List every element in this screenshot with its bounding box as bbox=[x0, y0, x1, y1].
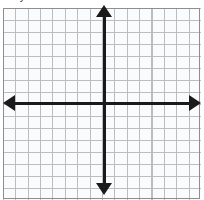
arrow-right-icon bbox=[189, 95, 201, 111]
arrow-up-icon bbox=[96, 5, 112, 17]
graph-screenshot: a? y bbox=[0, 0, 204, 200]
arrow-down-icon bbox=[96, 183, 112, 195]
y-axis bbox=[103, 12, 106, 192]
x-axis bbox=[8, 102, 196, 105]
caption-fragment-text: a? y bbox=[3, 0, 26, 2]
arrow-left-icon bbox=[3, 95, 15, 111]
